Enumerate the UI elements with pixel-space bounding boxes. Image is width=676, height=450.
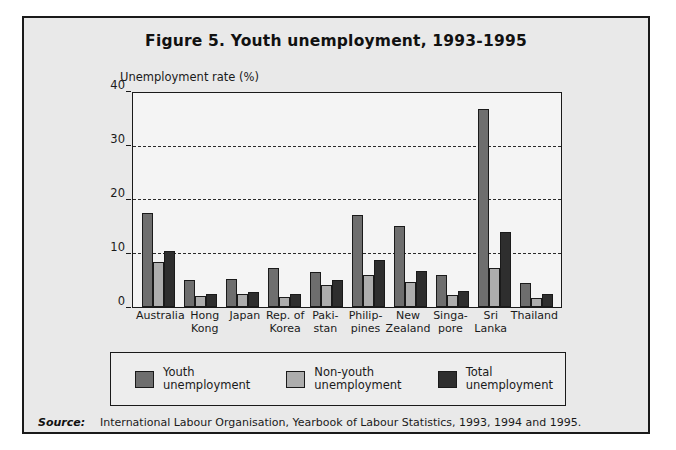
bar	[142, 213, 153, 307]
x-axis-label-line: Kong	[185, 323, 225, 336]
plot-area	[132, 92, 562, 308]
legend-swatch-non-youth	[286, 371, 305, 388]
bars-layer	[133, 93, 561, 307]
y-axis-title: Unemployment rate (%)	[120, 70, 259, 84]
y-tick-label-20: 20	[110, 186, 125, 200]
x-axis-label-line: Australia	[136, 310, 185, 323]
x-axis-label-line: Paki-	[305, 310, 345, 323]
y-tick-mark-30	[126, 145, 131, 146]
bar-group	[389, 93, 431, 307]
source-label: Source:	[38, 416, 100, 429]
y-tick-label-40: 40	[110, 78, 125, 92]
legend-label-line: unemployment	[163, 379, 250, 392]
bar-group	[515, 93, 557, 307]
x-axis-label: NewZealand	[386, 310, 431, 335]
x-axis-label-line: Rep. of	[265, 310, 305, 323]
x-axis-label: Singa-pore	[430, 310, 470, 335]
bar	[416, 271, 427, 307]
bar-group	[305, 93, 347, 307]
x-axis-label-line: pore	[430, 323, 470, 336]
legend-label-total: Totalunemployment	[466, 366, 553, 392]
bar-group	[263, 93, 305, 307]
y-tick-mark-10	[126, 253, 131, 254]
x-axis-label: Paki-stan	[305, 310, 345, 335]
bar	[363, 275, 374, 307]
x-axis-label-line: Japan	[225, 310, 265, 323]
bar	[500, 232, 511, 307]
legend-label-youth: Youthunemployment	[163, 366, 250, 392]
bar-group	[473, 93, 515, 307]
bar	[489, 268, 500, 307]
x-axis-label: Philip-pines	[345, 310, 385, 335]
bar	[374, 260, 385, 307]
legend-label-line: unemployment	[314, 379, 401, 392]
bar	[164, 251, 175, 307]
bar	[310, 272, 321, 307]
x-axis-label: Australia	[136, 310, 185, 335]
bar	[184, 280, 195, 307]
x-axis-label-line: Korea	[265, 323, 305, 336]
bar	[153, 262, 164, 307]
plot-wrapper: 010203040	[132, 92, 562, 308]
bar-group	[221, 93, 263, 307]
bar-group	[137, 93, 179, 307]
source-row: Source: International Labour Organisatio…	[38, 416, 638, 429]
bar	[321, 285, 332, 307]
y-tick-mark-0	[126, 307, 131, 308]
figure-container: Figure 5. Youth unemployment, 1993-1995 …	[22, 16, 650, 434]
bar-group	[431, 93, 473, 307]
x-axis-label: Japan	[225, 310, 265, 335]
bar	[248, 292, 259, 307]
legend-swatch-total	[438, 371, 457, 388]
y-tick-label-10: 10	[110, 240, 125, 254]
x-axis-labels: AustraliaHongKongJapanRep. ofKoreaPaki-s…	[132, 310, 562, 335]
bar	[405, 282, 416, 307]
bar	[447, 295, 458, 307]
legend-item-non-youth: Non-youthunemployment	[262, 366, 413, 392]
bar	[279, 297, 290, 307]
bar	[195, 296, 206, 307]
legend-swatch-youth	[135, 371, 154, 388]
y-tick-mark-20	[126, 199, 131, 200]
x-axis-label-line: New	[386, 310, 431, 323]
bar-group	[179, 93, 221, 307]
x-axis-label-line: Lanka	[471, 323, 511, 336]
bar	[332, 280, 343, 307]
bar	[237, 294, 248, 307]
bar	[394, 226, 405, 307]
bar	[352, 215, 363, 307]
x-axis-label-line: stan	[305, 323, 345, 336]
bar	[268, 268, 279, 307]
y-tick-label-0: 0	[118, 294, 125, 308]
bar	[458, 291, 469, 307]
x-axis-label-line: Singa-	[430, 310, 470, 323]
x-axis-label-line: Thailand	[511, 310, 558, 323]
bar	[542, 294, 553, 307]
x-axis-label: SriLanka	[471, 310, 511, 335]
x-axis-label-line: Zealand	[386, 323, 431, 336]
chart-legend: YouthunemploymentNon-youthunemploymentTo…	[110, 352, 566, 406]
x-axis-label-line: Sri	[471, 310, 511, 323]
bar	[531, 298, 542, 307]
figure-title: Figure 5. Youth unemployment, 1993-1995	[24, 32, 648, 50]
bar	[290, 294, 301, 307]
legend-label-non-youth: Non-youthunemployment	[314, 366, 401, 392]
source-text: International Labour Organisation, Yearb…	[100, 416, 581, 429]
y-tick-mark-40	[126, 91, 131, 92]
x-axis-label: Thailand	[511, 310, 558, 335]
bar	[226, 279, 237, 307]
bar	[478, 109, 489, 307]
legend-item-total: Totalunemployment	[414, 366, 565, 392]
legend-label-line: unemployment	[466, 379, 553, 392]
bar	[520, 283, 531, 307]
bar-group	[347, 93, 389, 307]
bar	[436, 275, 447, 307]
bar	[206, 294, 217, 307]
x-axis-label: Rep. ofKorea	[265, 310, 305, 335]
legend-item-youth: Youthunemployment	[111, 366, 262, 392]
x-axis-label-line: Hong	[185, 310, 225, 323]
y-tick-label-30: 30	[110, 132, 125, 146]
x-axis-label-line: pines	[345, 323, 385, 336]
x-axis-label: HongKong	[185, 310, 225, 335]
x-axis-label-line: Philip-	[345, 310, 385, 323]
